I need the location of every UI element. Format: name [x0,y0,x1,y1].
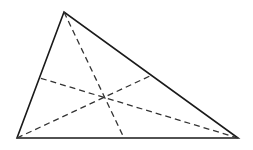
diagram-canvas [0,0,253,150]
triangle-outline [17,12,238,138]
cevian-from-top-vertex [64,12,124,138]
cevian-from-bottom-right-vertex [40,78,238,138]
triangle-diagram [0,0,253,150]
